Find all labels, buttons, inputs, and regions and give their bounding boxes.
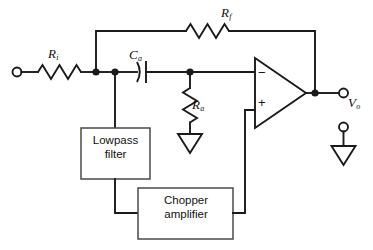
output-terminal[interactable] (339, 89, 348, 98)
chopper-amplifier-line2: amplifier (138, 208, 234, 222)
label-feedback-resistor: Rf (221, 6, 231, 19)
input-resistor-Ri (38, 65, 81, 79)
ground-reference-terminal[interactable] (339, 123, 348, 132)
label-shunt-resistor: Ra (192, 98, 204, 111)
ground-symbol-ra (178, 134, 202, 153)
wire-lowpass-to-chopper (115, 179, 138, 213)
lowpass-filter-line1: Lowpass (80, 134, 151, 148)
chopper-amplifier-label: Chopper amplifier (138, 194, 234, 221)
circuit-diagram: Ri Rf Ca Ra Vo − + Lowpass filter Choppe… (0, 0, 373, 250)
chopper-amplifier-line1: Chopper (138, 194, 234, 208)
opamp-inverting-sign: − (258, 66, 266, 79)
ground-symbol-output (332, 146, 356, 165)
label-output-voltage: Vo (348, 96, 360, 109)
label-input-resistor: Ri (48, 47, 58, 60)
lowpass-filter-label: Lowpass filter (80, 134, 151, 161)
label-coupling-capacitor: Ca (129, 48, 142, 61)
lowpass-filter-line2: filter (80, 148, 151, 162)
input-terminal[interactable] (13, 68, 22, 77)
wire-chopper-to-opamp-noninverting (233, 110, 255, 213)
feedback-resistor-Rf (186, 24, 229, 38)
opamp-noninverting-sign: + (258, 96, 266, 109)
